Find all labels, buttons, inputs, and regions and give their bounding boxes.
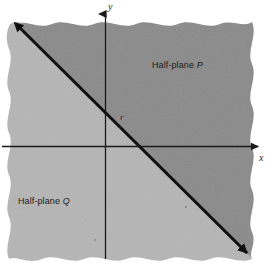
half-plane-p-label: Half-plane P: [152, 60, 203, 70]
half-plane-q-text: Half-plane: [18, 196, 60, 206]
half-plane-q-label: Half-plane Q: [18, 196, 70, 206]
half-plane-diagram: Half-plane P Half-plane Q y x r: [0, 0, 274, 276]
print-speck: [94, 239, 96, 241]
half-plane-p-text: Half-plane: [152, 60, 194, 70]
print-speck: [85, 219, 86, 220]
half-plane-q-letter: Q: [63, 196, 70, 206]
print-speck: [185, 206, 187, 208]
x-axis-label: x: [259, 152, 263, 163]
half-plane-p-letter: P: [197, 60, 203, 70]
diagram-canvas: [0, 0, 274, 276]
line-r-label: r: [120, 112, 124, 122]
y-axis-label: y: [108, 1, 112, 12]
shaded-plate: [0, 0, 274, 276]
print-speck: [177, 98, 178, 99]
